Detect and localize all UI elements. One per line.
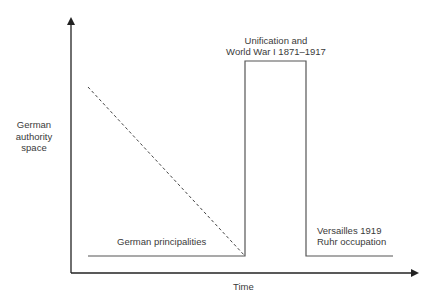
y-axis-label: German authority space	[2, 119, 66, 154]
y-axis-label-line: space	[2, 142, 66, 154]
versailles-line-1: Versailles 1919	[317, 225, 386, 236]
unification-line-1: Unification and	[206, 35, 346, 46]
dashed-decline-line	[88, 87, 245, 256]
versailles-line-2: Ruhr occupation	[317, 236, 386, 247]
y-axis-label-line: German	[2, 119, 66, 131]
y-axis-label-line: authority	[2, 131, 66, 143]
principalities-annotation: German principalities	[117, 236, 206, 247]
unification-line-2: World War I 1871–1917	[206, 46, 346, 57]
x-axis-label: Time	[233, 281, 254, 292]
unification-annotation: Unification and World War I 1871–1917	[206, 35, 346, 57]
versailles-annotation: Versailles 1919 Ruhr occupation	[317, 225, 386, 247]
